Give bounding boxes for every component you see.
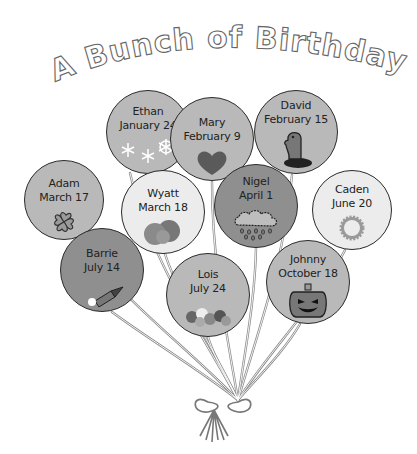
- balloon-name: Wyatt: [122, 187, 204, 201]
- balloon-name: David: [255, 99, 337, 113]
- balloon-date: October 18: [267, 267, 349, 281]
- balloon-date: February 9: [171, 130, 253, 144]
- balloon-name: Mary: [171, 116, 253, 130]
- page-title: A Bunch of Birthdays!: [0, 0, 417, 90]
- heart-icon: [195, 148, 229, 176]
- balloon-date: July 24: [167, 282, 249, 296]
- balloon-name: Adam: [25, 177, 103, 191]
- bow-icon: [195, 399, 251, 442]
- balloon-barrie: Barrie July 14: [60, 228, 144, 312]
- rain-cloud-icon: [232, 207, 280, 241]
- sun-icon: [339, 215, 365, 241]
- balloon-name: Caden: [313, 183, 391, 197]
- jack-o-lantern-icon: [288, 283, 328, 319]
- balloon-name: Johnny: [267, 253, 349, 267]
- balloon-johnny: Johnny October 18: [266, 240, 350, 324]
- balloon-date: April 1: [215, 189, 297, 203]
- bush-icon: [141, 219, 185, 245]
- balloon-date: March 18: [122, 201, 204, 215]
- balloon-date: July 14: [61, 261, 143, 275]
- balloon-lois: Lois July 24: [166, 253, 250, 337]
- balloon-caden: Caden June 20: [312, 170, 392, 250]
- balloon-name: Nigel: [215, 175, 297, 189]
- balloon-nigel: Nigel April 1: [214, 164, 298, 248]
- shamrock-icon: [49, 207, 79, 237]
- snowflakes-icon: [118, 137, 178, 165]
- flowers-icon: [184, 306, 232, 328]
- firework-rocket-icon: [85, 283, 125, 307]
- balloon-date: February 15: [255, 113, 337, 127]
- groundhog-icon: [276, 129, 316, 169]
- balloon-date: June 20: [313, 197, 391, 211]
- svg-text:A Bunch of Birthdays!: A Bunch of Birthdays!: [0, 0, 411, 88]
- balloon-name: Lois: [167, 268, 249, 282]
- balloon-name: Barrie: [61, 247, 143, 261]
- balloon-date: March 17: [25, 191, 103, 205]
- balloon-david: David February 15: [254, 90, 338, 174]
